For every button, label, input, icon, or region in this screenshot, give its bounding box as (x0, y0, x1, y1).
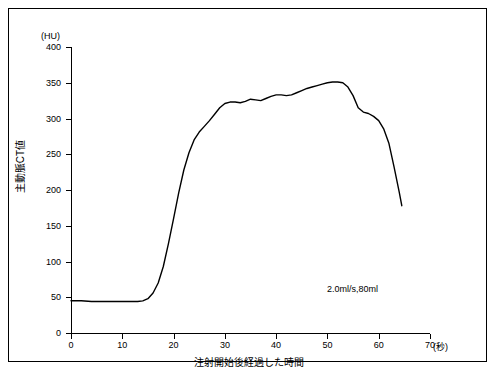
x-tick-label: 30 (215, 340, 235, 350)
y-tick-label: 250 (46, 149, 61, 159)
x-tick (430, 334, 431, 339)
y-axis-unit-label: (HU) (41, 31, 60, 41)
x-tick-label: 20 (164, 340, 184, 350)
y-axis-title: 主動脈CT値 (12, 97, 27, 237)
x-axis-title: 注射開始後経過した時間 (9, 354, 488, 369)
x-axis-unit-label: (秒) (433, 340, 448, 353)
x-tick-label: 60 (369, 340, 389, 350)
flow-rate-annotation: 2.0ml/s,80ml (327, 284, 378, 294)
x-tick-label: 40 (266, 340, 286, 350)
y-tick-label: 200 (46, 185, 61, 195)
x-tick (71, 334, 72, 339)
x-tick (174, 334, 175, 339)
y-tick-label: 150 (46, 221, 61, 231)
chart-frame: (HU) 400 350 300 250 200 150 100 50 0 0 … (8, 8, 487, 362)
x-tick-label: 10 (112, 340, 132, 350)
x-axis-line (71, 333, 430, 334)
y-tick-label: 100 (46, 257, 61, 267)
y-tick-label: 0 (56, 328, 61, 338)
y-tick-label: 300 (46, 114, 61, 124)
x-tick (225, 334, 226, 339)
x-tick-label: 50 (317, 340, 337, 350)
x-tick-label: 0 (61, 340, 81, 350)
x-tick (122, 334, 123, 339)
chart-page: (HU) 400 350 300 250 200 150 100 50 0 0 … (0, 0, 496, 371)
y-tick-label: 350 (46, 78, 61, 88)
y-tick-label: 50 (51, 292, 61, 302)
x-tick (327, 334, 328, 339)
x-tick (276, 334, 277, 339)
y-tick-label: 400 (46, 42, 61, 52)
x-tick (379, 334, 380, 339)
